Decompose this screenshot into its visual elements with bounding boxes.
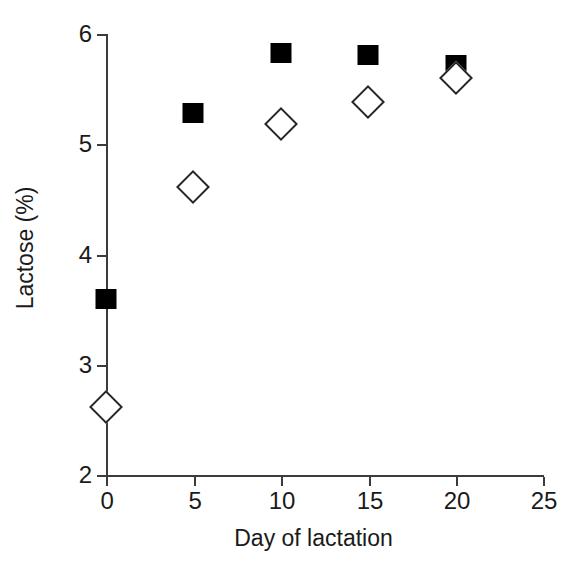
- data-point-filled-square-day-0: [96, 289, 117, 309]
- data-point-filled-square-day-5: [183, 103, 204, 123]
- data-point-open-diamond-day-20: [439, 61, 473, 95]
- data-point-filled-square-day-10: [270, 43, 291, 63]
- data-point-open-diamond-day-5: [176, 170, 210, 204]
- data-point-open-diamond-day-10: [264, 107, 298, 141]
- data-point-open-diamond-day-0: [89, 390, 123, 424]
- data-point-filled-square-day-15: [358, 45, 379, 65]
- data-point-open-diamond-day-15: [351, 85, 385, 119]
- chart-figure: 6 5 4 3 2 0 5 10 15 20 25 Day of lactati…: [0, 0, 579, 584]
- plot-area: [0, 0, 579, 584]
